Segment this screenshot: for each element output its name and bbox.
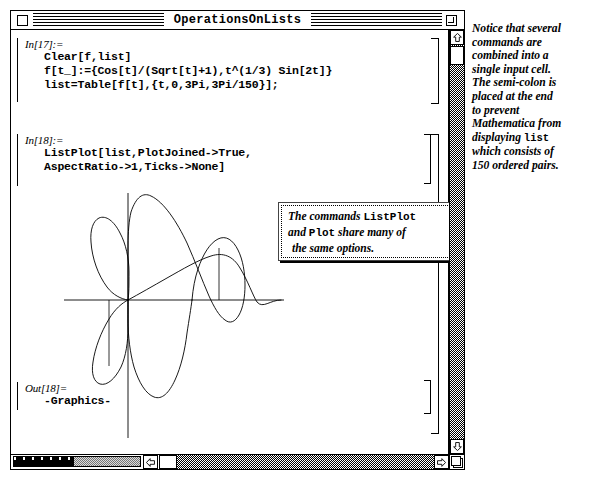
- window-title: OperationsOnLists: [11, 13, 464, 27]
- scroll-down-arrow-icon[interactable]: [450, 439, 464, 454]
- callout-line-2: and Plot share many of: [288, 225, 446, 241]
- horizontal-scroll-thumb[interactable]: [159, 455, 177, 469]
- down-arrow-glyph: [453, 442, 462, 451]
- margin-note-text: displaying: [472, 131, 524, 144]
- cell-size-indicator[interactable]: [13, 456, 141, 467]
- window-title-text: OperationsOnLists: [167, 13, 309, 27]
- cell-rule-out18: [17, 382, 18, 410]
- vertical-scrollbar[interactable]: [449, 30, 464, 454]
- margin-note-code-list: list: [524, 132, 549, 144]
- cell-code-line: AspectRatio->1,Ticks->None]: [25, 160, 252, 174]
- vertical-scroll-thumb[interactable]: [450, 46, 464, 65]
- margin-note-line: single input cell.: [472, 63, 588, 77]
- callout-code-listplot: ListPlot: [363, 211, 416, 223]
- callout-line-3: the same options.: [288, 241, 446, 256]
- plot-curve-tail: [128, 255, 281, 305]
- right-arrow-glyph: [437, 458, 446, 467]
- size-indicator-fill: [14, 457, 74, 466]
- window-titlebar[interactable]: OperationsOnLists: [11, 11, 464, 30]
- margin-note-line: commands are: [472, 36, 588, 50]
- cell-bracket-in18-inner[interactable]: [424, 134, 431, 184]
- callout-code-plot: Plot: [309, 227, 335, 239]
- margin-note-line: which consists of: [472, 145, 588, 159]
- scroll-left-arrow-icon[interactable]: [143, 455, 158, 469]
- scroll-up-arrow-icon[interactable]: [450, 30, 464, 45]
- up-arrow-glyph: [453, 33, 462, 42]
- notebook-content-area[interactable]: In[17]:= Clear[f,list] f[t_]:={Cos[t]/(S…: [11, 30, 449, 454]
- margin-note-line: 150 ordered pairs.: [472, 159, 588, 173]
- margin-note-line: combined into a: [472, 49, 588, 63]
- margin-note-line: Notice that several: [472, 22, 588, 36]
- vertical-scroll-track[interactable]: [450, 44, 464, 440]
- plot-curve-lobe-lower: [92, 300, 128, 384]
- cell-bracket-out18[interactable]: [424, 380, 431, 414]
- cell-rule-in17: [17, 38, 18, 102]
- cell-in17[interactable]: In[17]:= Clear[f,list] f[t_]:={Cos[t]/(S…: [25, 38, 332, 92]
- callout-box: The commands ListPlot and Plot share man…: [278, 202, 449, 261]
- cell-in18[interactable]: In[18]:= ListPlot[list,PlotJoined->True,…: [25, 134, 252, 174]
- margin-note-line: Mathematica from: [472, 117, 588, 131]
- margin-annotation: Notice that severalcommands arecombined …: [472, 22, 588, 173]
- cell-code-line: -Graphics-: [25, 394, 111, 408]
- margin-note-line: to prevent: [472, 104, 588, 118]
- cell-label-out18: Out[18]=: [25, 382, 111, 394]
- cell-code-line: list=Table[f[t],{t,0,3Pi,3Pi/150}];: [25, 78, 332, 92]
- cell-code-line: f[t_]:={Cos[t]/(Sqrt[t]+1),t^(1/3) Sin[2…: [25, 64, 332, 78]
- cell-out18[interactable]: Out[18]= -Graphics-: [25, 382, 111, 408]
- left-arrow-glyph: [146, 458, 155, 467]
- callout-text: The commands: [288, 210, 363, 222]
- notebook-canvas[interactable]: In[17]:= Clear[f,list] f[t_]:={Cos[t]/(S…: [11, 30, 449, 454]
- callout-text: share many of: [335, 226, 406, 238]
- margin-note-line: displaying list: [472, 131, 588, 146]
- horizontal-scroll-track[interactable]: [177, 455, 434, 469]
- cell-label-in17: In[17]:=: [25, 38, 332, 50]
- cell-code-line: Clear[f,list]: [25, 50, 332, 64]
- plot-curve: [128, 195, 245, 398]
- callout-line-1: The commands ListPlot: [288, 209, 446, 225]
- horizontal-scrollbar[interactable]: [11, 454, 449, 469]
- cell-code-line: ListPlot[list,PlotJoined->True,: [25, 146, 252, 160]
- grow-resize-box[interactable]: [449, 454, 464, 469]
- cell-rule-in18: [17, 134, 18, 186]
- callout-text: and: [288, 226, 309, 238]
- plot-curve-lobe: [91, 217, 129, 300]
- margin-note-line: placed at the end: [472, 90, 588, 104]
- cell-bracket-in18-outer[interactable]: [431, 134, 439, 434]
- margin-note-line: The semi-colon is: [472, 76, 588, 90]
- cell-label-in18: In[18]:=: [25, 134, 252, 146]
- notebook-window: OperationsOnLists In[17]:= Clear[f,list]…: [10, 10, 465, 470]
- scroll-right-arrow-icon[interactable]: [434, 455, 449, 469]
- size-indicator-track: [74, 457, 140, 466]
- cell-bracket-in17[interactable]: [431, 38, 439, 104]
